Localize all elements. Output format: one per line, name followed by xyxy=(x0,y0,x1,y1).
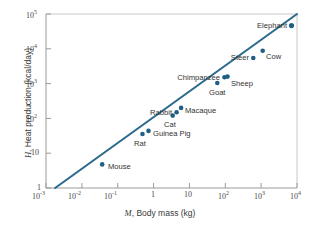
point-label-rabbit: Rabbit xyxy=(150,108,172,117)
point-label-cat: Cat xyxy=(164,120,176,129)
x-tick-label-1: 10-2 xyxy=(68,190,81,201)
point-label-guinea-pig: Guinea Pig xyxy=(153,129,191,138)
data-point-elephant xyxy=(289,23,294,28)
point-label-cow: Cow xyxy=(266,52,281,61)
x-tick-label-7: 104 xyxy=(290,190,301,201)
point-label-mouse: Mouse xyxy=(108,162,131,171)
y-axis-ticks xyxy=(46,14,51,188)
data-point-steer xyxy=(251,56,256,61)
data-point-sheep xyxy=(225,74,230,79)
y-tick-label-0: 1 xyxy=(37,183,41,192)
point-label-goat: Goat xyxy=(209,88,225,97)
data-point-mouse xyxy=(100,162,105,167)
point-label-elephant: Elephant xyxy=(257,21,287,30)
point-label-macaque: Macaque xyxy=(185,106,216,115)
data-point-rat xyxy=(140,132,145,137)
point-label-chimpanzee: Chimpanzee xyxy=(177,73,220,82)
data-point-guinea-pig xyxy=(146,129,151,134)
y-axis-title: H, Heat production (kcal/day) xyxy=(23,13,33,193)
x-axis-ticks xyxy=(46,183,297,188)
x-tick-label-4: 10 xyxy=(184,190,192,199)
x-tick-label-6: 103 xyxy=(254,190,265,201)
fit-line xyxy=(55,14,297,188)
data-point-markers xyxy=(100,23,294,167)
data-point-cow xyxy=(260,49,265,54)
data-point-macaque xyxy=(179,106,184,111)
chart-figure: 10-3 10-2 10-1 1 10 102 103 104 1 10 102… xyxy=(0,0,320,228)
point-label-rat: Rat xyxy=(134,139,146,148)
x-tick-label-5: 102 xyxy=(218,190,229,201)
x-axis-title: M, Body mass (kg) xyxy=(0,208,320,218)
x-tick-label-2: 10-1 xyxy=(104,190,117,201)
point-label-sheep: Sheep xyxy=(231,79,253,88)
x-tick-label-3: 1 xyxy=(151,190,155,199)
point-label-steer: Steer xyxy=(231,53,249,62)
data-point-rabbit xyxy=(174,110,179,115)
